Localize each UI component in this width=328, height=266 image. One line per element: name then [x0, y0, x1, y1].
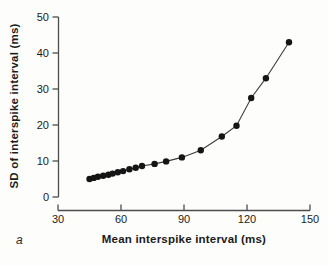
- y-axis-title: SD of interspike interval (ms): [8, 23, 20, 188]
- data-point: [263, 75, 269, 81]
- x-axis-title: Mean interspike interval (ms): [58, 233, 310, 245]
- data-point: [151, 161, 157, 167]
- plot-canvas: 01020304050306090120150: [0, 0, 328, 266]
- data-point: [139, 163, 145, 169]
- data-point: [286, 39, 292, 45]
- panel-label: a: [16, 233, 23, 247]
- x-tick-label: 150: [301, 213, 319, 225]
- y-tick-label: 20: [37, 119, 49, 131]
- data-point: [179, 154, 185, 160]
- x-tick-label: 120: [238, 213, 256, 225]
- y-tick-label: 0: [43, 191, 49, 203]
- y-tick-label: 30: [37, 83, 49, 95]
- data-point: [198, 147, 204, 153]
- data-point: [233, 123, 239, 129]
- data-point: [248, 95, 254, 101]
- data-point: [95, 174, 101, 180]
- series-line: [90, 42, 290, 179]
- data-point: [163, 158, 169, 164]
- y-tick-label: 50: [37, 11, 49, 23]
- x-tick-label: 60: [115, 213, 127, 225]
- y-tick-label: 10: [37, 155, 49, 167]
- data-point: [120, 168, 126, 174]
- x-tick-label: 90: [178, 213, 190, 225]
- data-point: [115, 169, 121, 175]
- data-point: [133, 165, 139, 171]
- data-point: [219, 133, 225, 139]
- x-tick-label: 30: [52, 213, 64, 225]
- scatter-plot-figure: 01020304050306090120150 SD of interspike…: [0, 0, 328, 266]
- y-tick-label: 40: [37, 47, 49, 59]
- data-point: [126, 166, 132, 172]
